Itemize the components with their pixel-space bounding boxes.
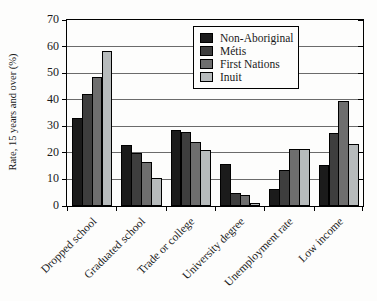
bar-inuit bbox=[151, 178, 162, 206]
x-axis-tick bbox=[67, 206, 68, 211]
y-axis-tick bbox=[62, 99, 67, 100]
y-axis-tick-right bbox=[358, 46, 363, 47]
legend-item-label: Non-Aboriginal bbox=[220, 32, 293, 44]
legend-item: First Nations bbox=[200, 57, 292, 70]
legend-item-label: First Nations bbox=[220, 58, 280, 70]
bar-inuit bbox=[102, 51, 113, 206]
y-axis-tick-right bbox=[358, 20, 363, 21]
y-tick-label: 20 bbox=[30, 145, 59, 160]
y-axis-tick bbox=[62, 73, 67, 74]
y-tick-label: 70 bbox=[30, 12, 59, 27]
y-axis-tick-right bbox=[358, 126, 363, 127]
legend: Non-AboriginalMétisFirst NationsInuit bbox=[193, 26, 299, 89]
y-axis-tick bbox=[62, 20, 67, 21]
x-axis-tick bbox=[215, 206, 216, 211]
legend-item: Métis bbox=[200, 44, 292, 57]
y-axis-tick bbox=[62, 152, 67, 153]
y-tick-label: 50 bbox=[30, 65, 59, 80]
y-axis-label: Rate, 15 years and over (%) bbox=[7, 19, 21, 205]
y-axis-tick-right bbox=[358, 99, 363, 100]
x-axis-tick bbox=[314, 206, 315, 211]
bar-inuit bbox=[348, 144, 359, 206]
y-axis-tick bbox=[62, 46, 67, 47]
y-tick-label: 40 bbox=[30, 92, 59, 107]
x-axis-tick bbox=[116, 206, 117, 211]
legend-item: Inuit bbox=[200, 71, 292, 84]
x-axis-tick bbox=[264, 206, 265, 211]
legend-swatch-icon bbox=[200, 46, 213, 56]
legend-swatch-icon bbox=[200, 33, 213, 43]
bar-chart-figure: Rate, 15 years and over (%) 010203040506… bbox=[0, 0, 377, 301]
y-tick-label: 10 bbox=[30, 171, 59, 186]
y-tick-label: 30 bbox=[30, 118, 59, 133]
bar-inuit bbox=[200, 150, 211, 206]
legend-swatch-icon bbox=[200, 72, 213, 82]
y-axis-tick bbox=[62, 179, 67, 180]
x-axis-tick bbox=[166, 206, 167, 211]
legend-item-label: Métis bbox=[220, 45, 246, 57]
y-tick-label: 0 bbox=[30, 198, 59, 213]
legend-item: Non-Aboriginal bbox=[200, 31, 292, 44]
legend-swatch-icon bbox=[200, 59, 213, 69]
x-category-label: Low income bbox=[295, 215, 344, 264]
x-axis-tick bbox=[362, 206, 363, 211]
bar-inuit bbox=[299, 149, 310, 206]
y-axis-tick bbox=[62, 126, 67, 127]
y-axis-tick-right bbox=[358, 73, 363, 74]
legend-item-label: Inuit bbox=[220, 71, 242, 83]
y-tick-label: 60 bbox=[30, 39, 59, 54]
bar-inuit bbox=[250, 203, 261, 206]
